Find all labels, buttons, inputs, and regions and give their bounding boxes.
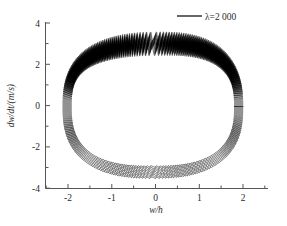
limit-cycle-curve xyxy=(63,32,243,179)
legend: λ=2 000 xyxy=(177,12,237,22)
y-axis-major-ticks xyxy=(46,23,51,188)
y-axis-title: dw/dt/(m/s) xyxy=(6,84,17,127)
y-tick-label-minus2: -2 xyxy=(32,142,40,152)
x-axis-title: w/h xyxy=(149,205,163,215)
legend-label: λ=2 000 xyxy=(205,12,237,22)
y-tick-label-minus4: -4 xyxy=(32,184,40,194)
data-series-group xyxy=(63,32,243,179)
x-tick-label-1: 1 xyxy=(197,193,202,203)
y-tick-label-4: 4 xyxy=(35,19,40,29)
y-tick-label-2: 2 xyxy=(35,60,40,70)
chart-canvas: 4 2 0 -2 -4 -2 -1 0 1 2 w/h dw/dt/(m/s) … xyxy=(0,0,287,226)
x-tick-label-minus2: -2 xyxy=(64,193,72,203)
x-tick-label-2: 2 xyxy=(241,193,246,203)
x-tick-label-minus1: -1 xyxy=(108,193,116,203)
x-tick-label-0: 0 xyxy=(153,193,158,203)
figure-phase-portrait: 4 2 0 -2 -4 -2 -1 0 1 2 w/h dw/dt/(m/s) … xyxy=(0,0,287,226)
y-tick-label-0: 0 xyxy=(35,101,40,111)
x-axis-major-ticks xyxy=(68,184,243,189)
